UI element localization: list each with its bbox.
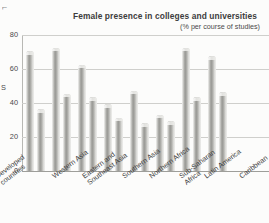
chart-subtitle: (% per course of studies) [66, 22, 264, 31]
y-tick-label-60: 60 [2, 65, 18, 73]
y-tick-label-20: 20 [2, 133, 18, 141]
y-tick-label-80: 80 [2, 31, 18, 39]
cropped-edge-text: S [1, 83, 6, 92]
bar [130, 91, 138, 171]
crop-mark-icon: ⌐ [2, 2, 9, 12]
bar [52, 48, 60, 171]
x-axis-labels: Developed countries Western Asia Eastern… [0, 174, 269, 223]
chart-container: ⌐ Female presence in colleges and univer… [0, 0, 269, 223]
chart-title: Female presence in colleges and universi… [66, 11, 264, 21]
y-tick-label-40: 40 [2, 99, 18, 107]
bar [89, 97, 97, 171]
